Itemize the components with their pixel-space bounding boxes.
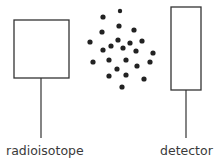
particle xyxy=(115,37,120,42)
particle xyxy=(118,9,122,13)
particle xyxy=(106,73,111,78)
particle xyxy=(99,29,104,34)
particle-cloud xyxy=(87,9,155,90)
particle xyxy=(116,23,121,28)
particle xyxy=(114,66,119,71)
radioisotope-label: radioisotope xyxy=(6,143,84,158)
particle xyxy=(134,63,139,68)
particle xyxy=(131,27,136,32)
particle xyxy=(119,84,124,89)
particle xyxy=(106,57,111,62)
particle xyxy=(133,48,138,53)
particle xyxy=(90,59,95,64)
particle xyxy=(147,59,152,64)
particle xyxy=(87,39,92,44)
particle xyxy=(150,50,155,55)
diagram-canvas xyxy=(0,0,217,162)
particle xyxy=(123,57,128,62)
particle xyxy=(139,38,144,43)
particle xyxy=(100,14,105,19)
particle xyxy=(108,43,113,48)
detector-label: detector xyxy=(160,143,213,158)
particle xyxy=(141,76,146,81)
particle xyxy=(123,72,128,77)
detector-box xyxy=(171,7,201,90)
radioisotope-source-box xyxy=(14,20,69,78)
particle xyxy=(127,40,132,45)
particle xyxy=(100,47,105,52)
particle xyxy=(120,45,125,50)
